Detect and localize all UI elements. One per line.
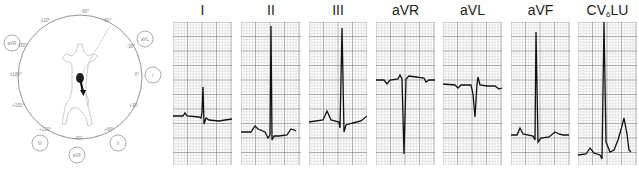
angle-label: +150° <box>12 103 24 108</box>
lead-circle-aVF: aVF <box>69 147 85 163</box>
angle-label: -30° <box>127 44 136 49</box>
lead-title: aVF <box>511 2 570 18</box>
lead-title: I <box>173 2 232 18</box>
ecg-panel-lead-aVF: aVF <box>511 0 570 170</box>
lead-title: CV6LU <box>578 2 637 23</box>
ecg-trace-lead-aVR <box>376 22 435 165</box>
angle-label: -150° <box>17 43 28 48</box>
angle-label: -120° <box>40 18 51 23</box>
angle-label: +60° <box>104 127 114 132</box>
svg-text:aVL: aVL <box>141 37 150 42</box>
ecg-panel-lead-III: III <box>309 0 367 170</box>
lead-title-suffix: LU <box>611 2 629 18</box>
lead-title-prefix: CV <box>587 2 606 18</box>
svg-text:I: I <box>152 73 153 78</box>
ecg-trace-lead-aVL <box>443 22 502 165</box>
lead-circle-II: II <box>110 135 126 151</box>
lead-circle-I: I <box>145 67 161 83</box>
hexaxial-lead-diagram: -90°-120°-60°-150°-30°±180°0°+150°+30°+1… <box>0 0 170 176</box>
hexaxial-svg: -90°-120°-60°-150°-30°±180°0°+150°+30°+1… <box>0 0 170 176</box>
svg-text:II: II <box>117 141 120 146</box>
ecg-trace-lead-II <box>241 22 301 165</box>
dog-silhouette-icon <box>62 44 98 126</box>
ecg-trace-lead-CV6LU <box>578 22 637 165</box>
angle-label: 0° <box>135 72 140 77</box>
angle-label: +120° <box>39 127 51 132</box>
ecg-panel-lead-II: II <box>241 0 301 170</box>
angle-label: +90° <box>73 136 83 141</box>
ecg-trace-lead-III <box>309 22 367 165</box>
svg-text:aVR: aVR <box>8 41 18 46</box>
angle-label: ±180° <box>10 72 22 77</box>
ecg-panel-lead-aVR: aVR <box>376 0 435 170</box>
axis-line-minus-60 <box>80 26 110 77</box>
svg-text:aVF: aVF <box>73 153 82 158</box>
angle-label: -90° <box>81 9 90 14</box>
lead-circle-III: III <box>32 135 48 151</box>
ecg-trace-lead-I <box>173 22 232 165</box>
svg-text:III: III <box>38 141 42 146</box>
lead-title: III <box>309 2 367 18</box>
lead-circles: aVRaVLIIIIaVFII <box>4 31 161 163</box>
lead-title: aVR <box>376 2 435 18</box>
ecg-panel-lead-CV6LU: CV6LU <box>578 0 637 170</box>
angle-label: -60° <box>103 18 112 23</box>
angle-label: +30° <box>129 103 139 108</box>
ecg-panel-lead-I: I <box>173 0 232 170</box>
lead-title: aVL <box>443 2 502 18</box>
ecg-trace-lead-aVF <box>511 22 570 165</box>
lead-circle-aVL: aVL <box>137 31 153 47</box>
heart-axis-arrow-icon <box>76 73 86 96</box>
ecg-panel-lead-aVL: aVL <box>443 0 502 170</box>
lead-title: II <box>241 2 301 18</box>
angle-labels: -90°-120°-60°-150°-30°±180°0°+150°+30°+1… <box>10 9 139 141</box>
